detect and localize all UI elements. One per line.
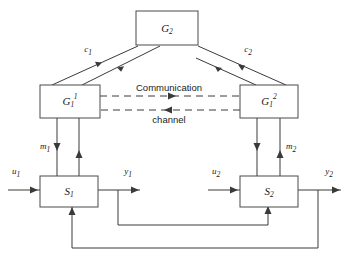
channel-forward-arrow xyxy=(100,93,240,100)
edge-u1-input xyxy=(8,187,40,194)
diagram-canvas: G2 G11 G12 S1 S2 c1 c2 m1 m2 u1 y1 xyxy=(0,0,347,266)
signal-label-y1: y1 xyxy=(123,166,132,179)
edge-m1-down xyxy=(54,118,61,176)
signal-label-m1: m1 xyxy=(40,141,50,154)
signal-label-u1: u1 xyxy=(12,166,20,179)
signal-label-u2: u2 xyxy=(212,166,221,179)
channel-top-label: Communication xyxy=(136,82,202,93)
signal-label-c2: c2 xyxy=(244,44,252,57)
edge-y2-output xyxy=(298,187,341,194)
edge-c1-up xyxy=(52,46,138,85)
edge-u2-input xyxy=(208,187,240,194)
channel-bottom-label: channel xyxy=(152,114,185,125)
signal-label-m2: m2 xyxy=(286,141,297,154)
edge-y1-output xyxy=(98,187,140,194)
edge-m2-up xyxy=(277,118,284,176)
edge-s1-to-g11-up xyxy=(76,118,83,176)
channel-reverse-arrow xyxy=(100,107,240,114)
block-diagram: G2 G11 G12 S1 S2 c1 c2 m1 m2 u1 y1 xyxy=(0,0,347,266)
signal-label-c1: c1 xyxy=(84,44,92,57)
edge-g2-to-g11-down xyxy=(82,46,160,85)
edge-g12-to-g2-up xyxy=(196,58,256,85)
signal-label-y2: y2 xyxy=(324,166,333,179)
edge-g12-to-s2-down xyxy=(254,118,261,176)
